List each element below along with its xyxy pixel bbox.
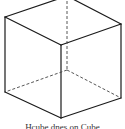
edge-bottom-right-front — [61, 98, 121, 118]
edge-top-left-front — [5, 17, 61, 45]
edge-bottom-left-front — [5, 92, 61, 118]
hidden-edge-right — [67, 70, 121, 98]
edge-top-back-right — [67, 0, 121, 24]
hidden-edge-left — [5, 70, 67, 92]
cube-wireframe-icon — [0, 0, 125, 120]
figure-caption: Hcube dnes on Cube — [0, 122, 125, 129]
edge-top-right-front — [61, 24, 121, 45]
edge-top-back-left — [5, 0, 67, 17]
necker-cube-figure: Hcube dnes on Cube — [0, 0, 125, 129]
